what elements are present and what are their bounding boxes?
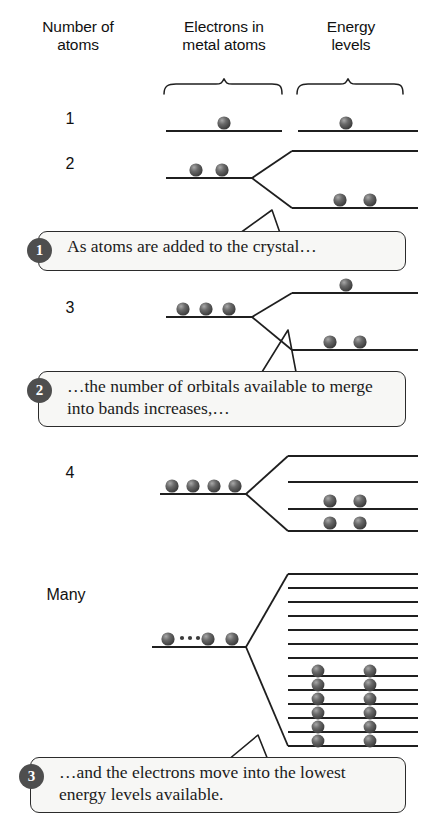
electron: [161, 632, 174, 645]
row-3-group: [166, 278, 418, 350]
electron: [176, 302, 189, 315]
row-2-splitting-fork: [252, 151, 292, 208]
electron: [323, 335, 336, 348]
row-many-metal-electrons: [161, 632, 238, 645]
electron: [364, 693, 377, 706]
row-label-4: 4: [30, 464, 110, 482]
electron: [222, 302, 235, 315]
electron: [312, 679, 325, 692]
column-header-electrons-line1: Electrons in: [158, 18, 290, 36]
brace-electrons: [164, 79, 282, 94]
row-4-metal-electrons: [165, 479, 241, 492]
electron: [333, 193, 346, 206]
electron: [201, 632, 214, 645]
column-header-atoms-line2: atoms: [8, 36, 148, 54]
row-2-metal-electrons: [189, 163, 228, 176]
row-label-2: 2: [30, 155, 110, 173]
electron: [323, 494, 336, 507]
row-4-group: [160, 456, 418, 531]
row-4-splitting-fork: [246, 456, 288, 531]
band-theory-diagram: Number of atoms Electrons in metal atoms…: [0, 0, 429, 819]
row-many-ellipsis-icon: [180, 636, 200, 640]
row-label-3: 3: [30, 299, 110, 317]
electron: [339, 278, 352, 291]
electron: [215, 163, 228, 176]
electron: [199, 302, 212, 315]
electron: [225, 632, 238, 645]
column-header-electrons-line2: metal atoms: [158, 36, 290, 54]
row-label-1: 1: [30, 110, 110, 128]
electron: [364, 721, 377, 734]
electron: [165, 479, 178, 492]
electron: [353, 516, 366, 529]
electron: [186, 479, 199, 492]
row-many-splitting-fork: [246, 574, 288, 746]
electron: [312, 721, 325, 734]
row-many-group: [152, 574, 418, 747]
row-2-group: [166, 151, 418, 208]
callout-1[interactable]: As atoms are added to the crystal…: [38, 231, 406, 271]
column-header-energy-levels: Energy levels: [292, 18, 410, 54]
electron: [364, 665, 377, 678]
electron: [353, 335, 366, 348]
electron: [323, 516, 336, 529]
electron: [207, 479, 220, 492]
column-header-electrons-in-metal-atoms: Electrons in metal atoms: [158, 18, 290, 54]
row-1-energy-electrons: [339, 116, 352, 129]
column-header-atoms-line1: Number of: [8, 18, 148, 36]
row-3-metal-electrons: [176, 302, 235, 315]
row-1-group: [166, 116, 418, 131]
row-1-metal-electrons: [217, 116, 230, 129]
callout-1-text: As atoms are added to the crystal…: [67, 236, 317, 256]
electron: [189, 163, 202, 176]
column-header-energy-line2: levels: [292, 36, 410, 54]
electron: [312, 735, 325, 748]
callout-3-text: …and the electrons move into the lowest …: [59, 762, 346, 804]
electron: [364, 679, 377, 692]
row-4-energy-electrons: [323, 494, 366, 529]
electron: [339, 116, 352, 129]
electron: [363, 193, 376, 206]
row-3-energy-electrons: [323, 278, 366, 348]
electron: [217, 116, 230, 129]
callout-3[interactable]: …and the electrons move into the lowest …: [30, 757, 406, 813]
electron: [312, 665, 325, 678]
row-label-many: Many: [18, 586, 114, 604]
row-many-energy-electrons: [312, 665, 377, 748]
callout-2-badge: 2: [27, 378, 52, 403]
callout-2-text: …the number of orbitals available to mer…: [67, 376, 373, 418]
electron: [228, 479, 241, 492]
electron: [312, 693, 325, 706]
electron: [312, 707, 325, 720]
callout-2-tail: [262, 330, 296, 372]
electron: [364, 735, 377, 748]
brace-energy: [297, 79, 403, 94]
callout-1-badge: 1: [27, 238, 52, 263]
callout-2[interactable]: …the number of orbitals available to mer…: [38, 371, 406, 427]
electron: [364, 707, 377, 720]
row-2-energy-electrons: [333, 193, 376, 206]
row-3-splitting-fork: [252, 293, 292, 350]
callout-3-badge: 3: [19, 764, 44, 789]
column-header-number-of-atoms: Number of atoms: [8, 18, 148, 54]
electron: [353, 494, 366, 507]
column-header-energy-line1: Energy: [292, 18, 410, 36]
